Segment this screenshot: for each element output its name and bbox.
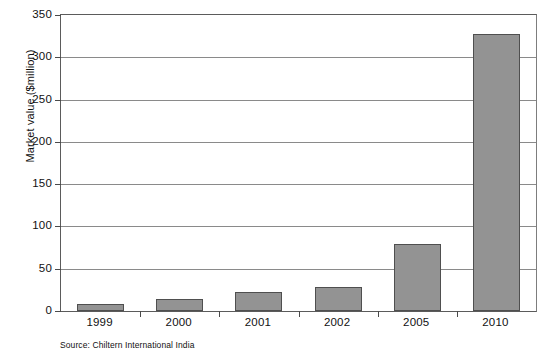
x-tick-label: 2001 bbox=[245, 316, 271, 328]
gridline bbox=[61, 269, 536, 270]
x-tick-mark bbox=[299, 311, 300, 317]
y-tick-label: 300 bbox=[8, 50, 52, 62]
y-tick-label: 100 bbox=[8, 219, 52, 231]
bar bbox=[473, 34, 520, 311]
y-axis-title: Market value ($million) bbox=[24, 6, 36, 206]
x-tick-mark bbox=[457, 311, 458, 317]
gridline bbox=[61, 226, 536, 227]
y-tick-label: 0 bbox=[8, 304, 52, 316]
y-tick-mark bbox=[55, 142, 61, 143]
gridline bbox=[61, 57, 536, 58]
bar bbox=[315, 287, 362, 311]
plot-area bbox=[60, 14, 537, 312]
x-tick-mark bbox=[378, 311, 379, 317]
y-tick-label: 150 bbox=[8, 177, 52, 189]
bar-chart-figure: Market value ($million) 0501001502002503… bbox=[0, 0, 553, 360]
y-tick-mark bbox=[55, 269, 61, 270]
y-tick-mark bbox=[55, 311, 61, 312]
x-tick-mark bbox=[219, 311, 220, 317]
y-tick-mark bbox=[55, 57, 61, 58]
y-tick-mark bbox=[55, 184, 61, 185]
x-tick-label: 2002 bbox=[324, 316, 350, 328]
bar bbox=[235, 292, 282, 311]
gridline bbox=[61, 100, 536, 101]
x-tick-label: 1999 bbox=[86, 316, 112, 328]
source-note: Source: Chiltern International India bbox=[60, 340, 194, 350]
y-tick-label: 350 bbox=[8, 8, 52, 20]
x-tick-label: 2010 bbox=[482, 316, 508, 328]
y-tick-label: 50 bbox=[8, 262, 52, 274]
gridline bbox=[61, 184, 536, 185]
bar bbox=[77, 304, 124, 311]
x-tick-mark bbox=[140, 311, 141, 317]
y-tick-mark bbox=[55, 15, 61, 16]
gridline bbox=[61, 142, 536, 143]
y-tick-label: 250 bbox=[8, 93, 52, 105]
y-tick-mark bbox=[55, 226, 61, 227]
y-tick-label: 200 bbox=[8, 135, 52, 147]
bar bbox=[156, 299, 203, 311]
x-tick-label: 2000 bbox=[166, 316, 192, 328]
y-tick-mark bbox=[55, 100, 61, 101]
x-tick-label: 2005 bbox=[403, 316, 429, 328]
bar bbox=[394, 244, 441, 311]
